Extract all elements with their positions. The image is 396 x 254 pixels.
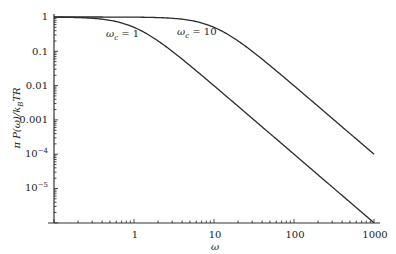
y-tick-label-1e-5: 10−5 [25, 181, 48, 193]
annotation-wc-10: ωc = 10 [177, 26, 217, 40]
annotation-wc-1: ωc = 1 [106, 28, 139, 42]
x-tick-label-1000: 1000 [362, 229, 387, 240]
x-tick-label-10: 10 [209, 229, 222, 240]
x-tick-label-100: 100 [285, 229, 304, 240]
series-line-wc-1 [54, 17, 374, 223]
y-tick-label-1e-4: 10−4 [25, 147, 49, 159]
chart-canvas: 1 0.1 0.01 0.001 10−4 10−5 1 10 100 1000… [0, 0, 396, 254]
x-axis-title: ω [211, 241, 219, 252]
y-tick-label-0.01: 0.01 [26, 80, 48, 91]
y-tick-label-0.001: 0.001 [19, 114, 48, 125]
y-tick-label-0.1: 0.1 [32, 46, 48, 57]
y-tick-label-1: 1 [42, 11, 48, 22]
x-tick-label-1: 1 [132, 229, 138, 240]
